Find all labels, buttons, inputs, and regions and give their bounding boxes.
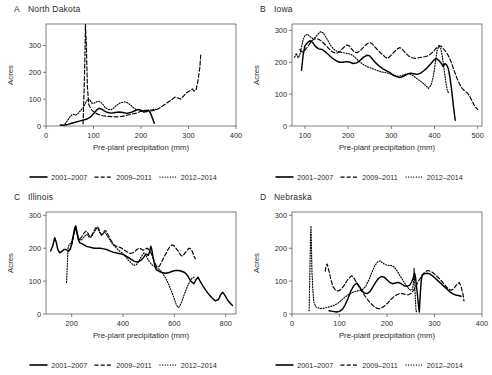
svg-text:200: 200	[135, 131, 147, 140]
svg-text:Acres: Acres	[6, 65, 15, 85]
svg-text:200: 200	[275, 244, 287, 253]
plot-area: 0100200300100200300400500Pre-plant preci…	[246, 16, 492, 156]
legend-label: 2012–2014	[181, 174, 217, 181]
legend: 2001–2007 2009–2011 2012–2014	[0, 174, 246, 181]
line-chart-illinois: 0100200300200400600800Pre-plant precipit…	[0, 204, 246, 344]
legend-entry-2001-2007: 2001–2007	[29, 174, 87, 181]
legend-label: 2009–2011	[362, 362, 397, 369]
svg-text:100: 100	[275, 90, 287, 99]
svg-text:200: 200	[29, 244, 41, 253]
legend-swatch-dotted-icon	[405, 362, 424, 368]
legend-entry-2001-2007: 2001–2007	[275, 174, 333, 181]
plot-area: 01002003000100200300400Pre-plant precipi…	[0, 16, 246, 156]
legend: 2001–2007 2009–2011 2012–2014	[246, 174, 492, 181]
legend-entry-2001-2007: 2001–2007	[275, 362, 333, 369]
svg-text:300: 300	[182, 131, 194, 140]
legend-swatch-solid-icon	[275, 362, 294, 368]
panel-header: BIowa	[260, 4, 293, 14]
svg-text:100: 100	[299, 131, 311, 140]
panel-header: CIllinois	[14, 192, 53, 202]
legend-entry-2009-2011: 2009–2011	[94, 362, 151, 369]
svg-text:600: 600	[168, 319, 180, 328]
svg-text:100: 100	[87, 131, 99, 140]
legend-label: 2012–2014	[181, 362, 217, 369]
svg-text:Pre-plant precipitation (mm): Pre-plant precipitation (mm)	[93, 143, 190, 152]
panel-nebraska: DNebraska 01002003000100200300400Pre-pla…	[246, 188, 492, 375]
svg-text:Pre-plant precipitation (mm): Pre-plant precipitation (mm)	[93, 331, 190, 340]
panel-iowa: BIowa 0100200300100200300400500Pre-plant…	[246, 0, 492, 187]
svg-text:Acres: Acres	[6, 253, 15, 273]
panel-letter: D	[260, 192, 274, 202]
svg-text:100: 100	[29, 277, 41, 286]
svg-text:400: 400	[476, 319, 488, 328]
svg-text:Acres: Acres	[252, 65, 261, 85]
svg-text:0: 0	[37, 310, 41, 319]
panel-illinois: CIllinois 0100200300200400600800Pre-plan…	[0, 188, 246, 375]
legend-swatch-solid-icon	[29, 362, 48, 368]
legend-label: 2009–2011	[362, 174, 397, 181]
svg-text:300: 300	[29, 211, 41, 220]
legend-swatch-dotted-icon	[405, 174, 424, 180]
svg-text:400: 400	[428, 131, 440, 140]
svg-text:0: 0	[37, 122, 41, 131]
plot-area: 01002003000100200300400Pre-plant precipi…	[246, 204, 492, 344]
svg-text:400: 400	[117, 319, 129, 328]
svg-text:800: 800	[220, 319, 232, 328]
legend-swatch-solid-icon	[29, 174, 48, 180]
svg-text:200: 200	[381, 319, 393, 328]
legend-entry-2009-2011: 2009–2011	[94, 174, 151, 181]
legend-entry-2009-2011: 2009–2011	[340, 174, 397, 181]
svg-text:100: 100	[275, 277, 287, 286]
svg-text:300: 300	[428, 319, 440, 328]
panel-title: Iowa	[274, 4, 293, 14]
legend-swatch-dashed-icon	[340, 362, 359, 368]
legend-entry-2012-2014: 2012–2014	[159, 174, 217, 181]
panel-letter: B	[260, 4, 274, 14]
line-chart-north-dakota: 01002003000100200300400Pre-plant precipi…	[0, 16, 246, 156]
panel-north-dakota: ANorth Dakota 01002003000100200300400Pre…	[0, 0, 246, 187]
legend-label: 2009–2011	[116, 362, 151, 369]
line-chart-nebraska: 01002003000100200300400Pre-plant precipi…	[246, 204, 492, 344]
panel-letter: C	[14, 192, 28, 202]
legend-label: 2001–2007	[51, 174, 87, 181]
panel-title: Nebraska	[274, 192, 312, 202]
legend-entry-2012-2014: 2012–2014	[405, 362, 463, 369]
panel-header: ANorth Dakota	[14, 4, 80, 14]
legend-label: 2009–2011	[116, 174, 151, 181]
svg-text:0: 0	[283, 122, 287, 131]
figure-panel-grid: ANorth Dakota 01002003000100200300400Pre…	[0, 0, 492, 375]
svg-text:300: 300	[29, 41, 41, 50]
legend-swatch-dotted-icon	[159, 174, 178, 180]
legend-swatch-dashed-icon	[94, 362, 113, 368]
legend-swatch-dotted-icon	[159, 362, 178, 368]
legend-swatch-solid-icon	[275, 174, 294, 180]
legend-entry-2012-2014: 2012–2014	[405, 174, 463, 181]
svg-text:0: 0	[283, 310, 287, 319]
plot-area: 0100200300200400600800Pre-plant precipit…	[0, 204, 246, 344]
legend-entry-2012-2014: 2012–2014	[159, 362, 217, 369]
legend-swatch-dashed-icon	[94, 174, 113, 180]
legend: 2001–2007 2009–2011 2012–2014	[0, 362, 246, 369]
svg-text:200: 200	[275, 58, 287, 67]
svg-text:Pre-plant precipitation (mm): Pre-plant precipitation (mm)	[339, 331, 436, 340]
panel-header: DNebraska	[260, 192, 312, 202]
legend-label: 2012–2014	[427, 174, 463, 181]
svg-text:300: 300	[385, 131, 397, 140]
panel-letter: A	[14, 4, 28, 14]
svg-text:100: 100	[333, 319, 345, 328]
svg-text:Pre-plant precipitation (mm): Pre-plant precipitation (mm)	[339, 143, 436, 152]
legend-label: 2001–2007	[297, 174, 333, 181]
legend-entry-2001-2007: 2001–2007	[29, 362, 87, 369]
legend-label: 2012–2014	[427, 362, 463, 369]
panel-title: Illinois	[28, 192, 53, 202]
svg-text:0: 0	[290, 319, 294, 328]
svg-text:500: 500	[472, 131, 484, 140]
legend: 2001–2007 2009–2011 2012–2014	[246, 362, 492, 369]
line-chart-iowa: 0100200300100200300400500Pre-plant preci…	[246, 16, 492, 156]
svg-text:300: 300	[275, 211, 287, 220]
legend-swatch-dashed-icon	[340, 174, 359, 180]
legend-label: 2001–2007	[51, 362, 87, 369]
svg-text:200: 200	[29, 68, 41, 77]
svg-text:200: 200	[66, 319, 78, 328]
legend-entry-2009-2011: 2009–2011	[340, 362, 397, 369]
